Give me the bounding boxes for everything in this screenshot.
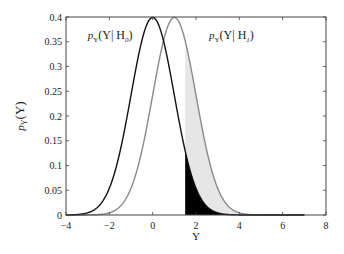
y-tick-label: 0.35 (45, 36, 63, 47)
y-axis-label: pΥ(Υ) (12, 101, 29, 131)
x-tick-label: 0 (150, 220, 155, 231)
y-tick-label: 0.15 (45, 135, 63, 146)
y-tick-label: 0.3 (50, 61, 63, 72)
y-tick-label: 0 (57, 210, 62, 221)
h1-curve (66, 18, 304, 215)
x-axis-label: Υ (192, 230, 200, 242)
curves (66, 18, 304, 215)
y-tick-label: 0.2 (50, 111, 63, 122)
y-tick-label: 0.05 (45, 185, 63, 196)
y-label-rest: (Υ) (12, 101, 27, 119)
h0-curve (66, 18, 304, 215)
y-tick-label: 0.1 (50, 160, 63, 171)
detection-region (185, 41, 304, 215)
annotation-h1: pΥ(Υ| H1) (208, 28, 254, 44)
pdf-chart: −4−202468 00.050.10.150.20.250.30.350.4 … (0, 0, 344, 254)
annotations: pΥ(Υ| H0)pΥ(Υ| H1) (87, 28, 254, 44)
annotation-h0: pΥ(Υ| H0) (87, 28, 133, 44)
y-tick-label: 0.4 (50, 12, 63, 23)
x-tick-label: 6 (280, 220, 285, 231)
x-tick-label: −2 (104, 220, 115, 231)
x-tick-label: 8 (324, 220, 329, 231)
x-tick-label: −4 (61, 220, 72, 231)
x-tick-label: 4 (237, 220, 242, 231)
svg-text:pΥ(Υ): pΥ(Υ) (12, 101, 29, 131)
y-tick-label: 0.25 (45, 86, 63, 97)
shaded-regions (185, 41, 304, 215)
